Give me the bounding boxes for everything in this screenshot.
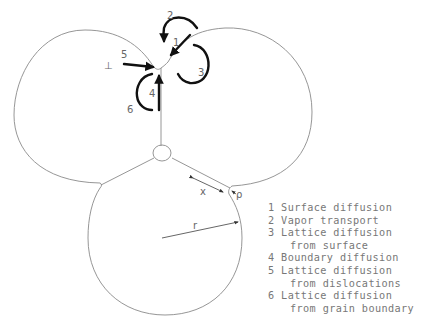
label-1: 1 [173,37,179,48]
legend: 1 Surface diffusion 2 Vapor transport 3 … [268,202,414,315]
legend-num: 1 [268,202,275,213]
dislocation-symbol: ⊥ [104,60,113,71]
central-pore [153,145,171,161]
legend-item-5: 5 Lattice diffusion [268,265,414,278]
label-4: 4 [149,88,155,99]
legend-text: Surface diffusion [281,202,392,213]
bottom-particle [88,188,242,315]
grain-boundary-right [172,158,230,188]
dimension-x [193,178,223,192]
legend-num: 5 [268,265,275,276]
legend-item-4: 4 Boundary diffusion [268,252,414,265]
arrow-2-vapor-transport [164,18,197,42]
label-3: 3 [198,67,204,78]
legend-num: 2 [268,215,275,226]
label-6: 6 [127,104,133,115]
left-neck [100,183,102,188]
legend-item-3-cont: from surface [268,240,414,253]
label-x: x [200,186,206,197]
top-neck [153,62,168,69]
dimension-r [162,222,238,238]
legend-text: Lattice diffusion [281,290,392,301]
label-5: 5 [121,49,127,60]
label-rho: ρ [236,189,242,200]
legend-item-3: 3 Lattice diffusion [268,227,414,240]
legend-item-2: 2 Vapor transport [268,215,414,228]
legend-num: 3 [268,227,275,238]
right-particle [168,28,312,186]
legend-text: Lattice diffusion [281,227,392,238]
label-r: r [193,220,198,231]
legend-item-5-cont: from dislocations [268,278,414,291]
legend-text: Boundary diffusion [281,252,399,263]
legend-num: 6 [268,290,275,301]
legend-item-6-cont: from grain boundary [268,303,414,316]
arrow-5-lattice-from-dislocations [124,64,153,67]
legend-item-6: 6 Lattice diffusion [268,290,414,303]
grain-boundary-left [101,158,154,185]
legend-text: Lattice diffusion [281,265,392,276]
legend-num: 4 [268,252,275,263]
label-2: 2 [167,10,173,21]
legend-item-1: 1 Surface diffusion [268,202,414,215]
legend-text: Vapor transport [281,215,379,226]
